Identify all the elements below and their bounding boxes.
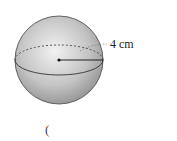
answer-paren: ( xyxy=(45,122,49,137)
radius-label: 4 cm xyxy=(110,37,134,51)
sphere-diagram: 4 cm ( xyxy=(0,0,177,141)
